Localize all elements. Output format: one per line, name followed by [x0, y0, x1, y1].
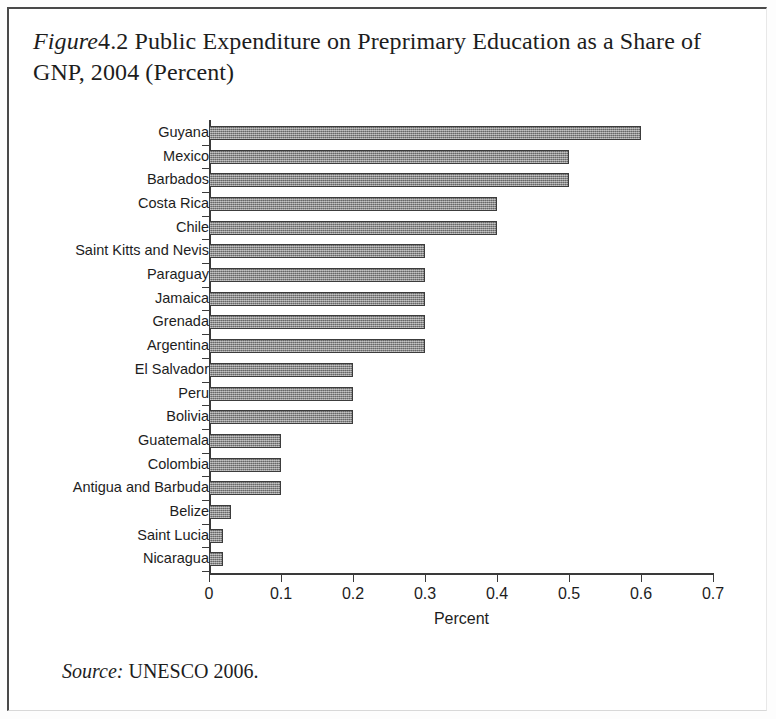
x-axis-tick-label: 0.2: [323, 585, 383, 603]
bar: [209, 268, 425, 282]
x-axis-tick: [281, 575, 282, 582]
category-label: Paraguay: [0, 266, 209, 282]
category-label: Colombia: [0, 456, 209, 472]
category-label: Chile: [0, 219, 209, 235]
category-label: Barbados: [0, 171, 209, 187]
category-label: Saint Lucia: [0, 527, 209, 543]
bar-row: [209, 169, 713, 192]
bar-row: [209, 359, 713, 382]
bar-row: [209, 335, 713, 358]
x-axis-title: Percent: [209, 610, 714, 628]
x-axis-tick-label: 0.1: [251, 585, 311, 603]
category-label: Antigua and Barbuda: [0, 479, 209, 495]
bar: [209, 173, 569, 187]
category-label: Grenada: [0, 313, 209, 329]
category-label: Peru: [0, 385, 209, 401]
category-label: Mexico: [0, 148, 209, 164]
bar: [209, 197, 497, 211]
bar: [209, 410, 353, 424]
x-axis-tick: [497, 575, 498, 582]
bar: [209, 387, 353, 401]
source-label: Source:: [62, 660, 123, 682]
bar: [209, 150, 569, 164]
x-axis-tick: [353, 575, 354, 582]
bar: [209, 126, 641, 140]
bar: [209, 552, 223, 566]
bar-row: [209, 240, 713, 263]
bar: [209, 529, 223, 543]
bar-row: [209, 501, 713, 524]
bar-row: [209, 264, 713, 287]
bar: [209, 458, 281, 472]
bar-row: [209, 311, 713, 334]
bar-row: [209, 146, 713, 169]
bar: [209, 481, 281, 495]
bar-row: [209, 288, 713, 311]
bar-row: [209, 217, 713, 240]
category-label: Guyana: [0, 124, 209, 140]
x-axis-tick-label: 0.3: [395, 585, 455, 603]
plot-area: GuyanaMexicoBarbadosCosta RicaChileSaint…: [209, 122, 713, 572]
bar-row: [209, 525, 713, 548]
bar-row: [209, 430, 713, 453]
bar-row: [209, 406, 713, 429]
bar-row: [209, 477, 713, 500]
category-label: Argentina: [0, 337, 209, 353]
x-axis-tick-label: 0.5: [539, 585, 599, 603]
x-axis-tick: [209, 575, 210, 582]
bar: [209, 363, 353, 377]
bar-row: [209, 548, 713, 571]
bar-row: [209, 383, 713, 406]
category-label: Costa Rica: [0, 195, 209, 211]
figure-container: Figure4.2 Public Expenditure on Preprima…: [0, 0, 776, 719]
bar-row: [209, 454, 713, 477]
bar: [209, 315, 425, 329]
bar: [209, 505, 231, 519]
x-axis-tick: [641, 575, 642, 582]
category-label: El Salvador: [0, 361, 209, 377]
x-axis-tick-label: 0.4: [467, 585, 527, 603]
category-labels-group: GuyanaMexicoBarbadosCosta RicaChileSaint…: [0, 122, 209, 572]
bar-row: [209, 122, 713, 145]
bar-chart: GuyanaMexicoBarbadosCosta RicaChileSaint…: [0, 0, 776, 719]
bar: [209, 244, 425, 258]
category-label: Guatemala: [0, 432, 209, 448]
category-label: Belize: [0, 503, 209, 519]
category-label: Bolivia: [0, 408, 209, 424]
category-label: Saint Kitts and Nevis: [0, 242, 209, 258]
x-axis-tick: [713, 575, 714, 582]
x-axis-ticks-group: 00.10.20.30.40.50.60.7: [209, 575, 714, 615]
x-axis-tick: [569, 575, 570, 582]
bar: [209, 292, 425, 306]
bar-row: [209, 193, 713, 216]
source-note: Source: UNESCO 2006.: [62, 660, 258, 683]
bar: [209, 339, 425, 353]
x-axis-tick: [425, 575, 426, 582]
category-label: Nicaragua: [0, 550, 209, 566]
bar: [209, 221, 497, 235]
x-axis-tick-label: 0.7: [683, 585, 743, 603]
source-text: UNESCO 2006.: [128, 660, 258, 682]
category-label: Jamaica: [0, 290, 209, 306]
x-axis-tick-label: 0: [179, 585, 239, 603]
x-axis-tick-label: 0.6: [611, 585, 671, 603]
bar: [209, 434, 281, 448]
